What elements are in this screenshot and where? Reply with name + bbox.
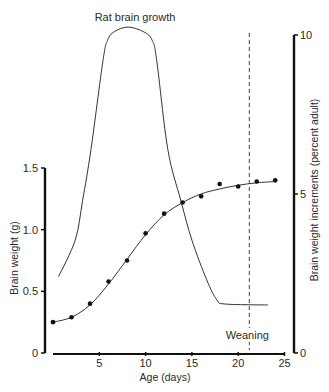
data-point (88, 301, 93, 306)
data-point (273, 178, 278, 183)
brain-weight-data-points (51, 178, 278, 324)
data-point (106, 279, 111, 284)
left-y-ticks: 00.51.01.5 (23, 162, 45, 359)
data-point (162, 211, 167, 216)
data-point (69, 315, 74, 320)
right-y-axis-title: Brain weight increments (percent adult) (308, 99, 320, 282)
x-axis-title: Age (days) (140, 371, 191, 383)
x-tick-label: 25 (278, 357, 290, 369)
data-point (199, 194, 204, 199)
left-y-axis-title: Brain weight (g) (8, 221, 20, 295)
chart-title: Rat brain growth (95, 11, 176, 23)
growth-rate-curve (59, 27, 268, 305)
data-point (236, 184, 241, 189)
x-tick-label: 10 (139, 357, 151, 369)
data-point (180, 200, 185, 205)
right-tick-label: 0 (300, 347, 306, 359)
left-tick-label: 1.0 (23, 224, 38, 236)
x-tick-label: 20 (232, 357, 244, 369)
data-point (51, 320, 56, 325)
x-tick-label: 5 (96, 357, 102, 369)
x-tick-label: 15 (186, 357, 198, 369)
data-point (125, 258, 130, 263)
weaning-label: Weaning (226, 329, 269, 341)
left-tick-label: 0 (32, 347, 38, 359)
data-point (254, 179, 259, 184)
data-point (217, 182, 222, 187)
rat-brain-growth-chart: Rat brain growth Weaning 00.51.01.5 0510… (0, 0, 329, 392)
left-tick-label: 1.5 (23, 162, 38, 174)
right-tick-label: 10 (300, 29, 312, 41)
data-point (143, 231, 148, 236)
right-tick-label: 5 (300, 188, 306, 200)
brain-weight-fitted-curve (53, 182, 275, 323)
left-tick-label: 0.5 (23, 285, 38, 297)
